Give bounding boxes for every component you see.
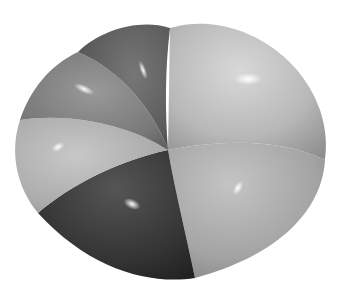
highlight	[234, 73, 262, 85]
upper-right-lobe	[168, 24, 326, 160]
lower-right-lobe	[168, 143, 325, 278]
figure-stage	[0, 0, 338, 292]
segmented-dome-figure	[0, 0, 338, 292]
